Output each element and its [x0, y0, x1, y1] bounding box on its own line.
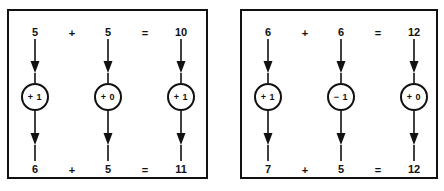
- correction-node: + 0: [400, 83, 428, 111]
- operator-bottom-plus: +: [57, 164, 87, 176]
- flow-column-right-2: 6 − 1 5: [321, 11, 361, 177]
- operator-bottom-equals: =: [363, 164, 393, 176]
- operator-bottom-equals: =: [130, 164, 160, 176]
- result-bottom: 12: [394, 164, 434, 175]
- correction-node: − 1: [327, 83, 355, 111]
- panel-right: 6 + 1 7 + + 6: [240, 9, 438, 179]
- flow-column-left-3: 10 + 1 11: [161, 11, 201, 177]
- operand-bottom: 6: [15, 164, 55, 175]
- panel-left: 5 + 1 6 + + 5: [7, 9, 208, 179]
- diagram-root: 5 + 1 6 + + 5: [0, 0, 444, 191]
- flow-column-right-3: 12 + 0 12: [394, 11, 434, 177]
- operator-top-plus: +: [290, 27, 320, 39]
- operator-bottom-plus: +: [290, 164, 320, 176]
- result-bottom: 11: [161, 164, 201, 175]
- flow-column-left-2: 5 + 0 5: [88, 11, 128, 177]
- operand-bottom: 5: [321, 164, 361, 175]
- correction-node: + 0: [94, 83, 122, 111]
- flow-column-right-1: 6 + 1 7: [248, 11, 288, 177]
- correction-node: + 1: [254, 83, 282, 111]
- operand-bottom: 7: [248, 164, 288, 175]
- operand-bottom: 5: [88, 164, 128, 175]
- operator-top-equals: =: [130, 27, 160, 39]
- flow-column-left-1: 5 + 1 6: [15, 11, 55, 177]
- correction-node: + 1: [21, 83, 49, 111]
- operator-top-equals: =: [363, 27, 393, 39]
- operator-top-plus: +: [57, 27, 87, 39]
- correction-node: + 1: [167, 83, 195, 111]
